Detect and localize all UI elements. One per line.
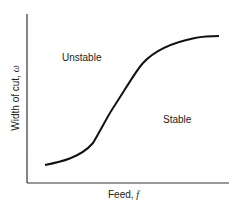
y-axis-label-symbol: ω [10, 65, 21, 72]
y-axis-label-text: Width of cut, [10, 72, 21, 130]
y-axis-label: Width of cut, ω [10, 65, 21, 130]
x-axis-label: Feed, f [108, 189, 139, 200]
region-label-stable: Stable [163, 114, 191, 125]
x-axis-label-text: Feed, [108, 189, 136, 200]
chart-canvas [0, 0, 240, 207]
x-axis-label-symbol: f [136, 189, 139, 200]
region-label-unstable: Unstable [62, 52, 101, 63]
